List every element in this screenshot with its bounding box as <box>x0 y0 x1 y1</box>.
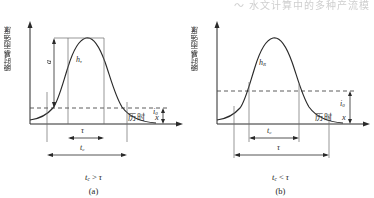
caption-cond-op-a: > <box>92 172 97 182</box>
caption-cond-right-b: τ <box>286 172 289 182</box>
baseline-label-b: i0 <box>340 100 345 109</box>
y-axis-variable-a: i <box>6 26 8 34</box>
caption-cond-op-b: < <box>279 172 284 182</box>
y-axis-label-b: 瞬时暴雨强度 <box>191 28 198 72</box>
peak-label-sub-a: τ <box>80 59 82 64</box>
caption-condition-b: tc < τ <box>187 172 374 182</box>
caption-cond-left-sub-a: c <box>87 176 89 182</box>
caption-id-a: (a) <box>0 186 187 196</box>
plot-area-b: 瞬时暴雨强度 i 历时 x hR i0 tc τ <box>187 12 374 170</box>
y-axis-variable-b: i <box>193 26 195 34</box>
scan-ghost-text: ～ 水文计算中的多种产流模 <box>234 0 370 12</box>
outer-dimension-label-a: tc <box>80 144 84 153</box>
x-axis-variable-b: x <box>342 113 346 122</box>
baseline-label-sub-b: 0 <box>342 103 344 108</box>
scan-artifact-strip: ～ 水文计算中的多种产流模 <box>0 0 374 12</box>
figure-panel-b: 瞬时暴雨强度 i 历时 x hR i0 tc τ tc < τ <box>187 12 374 198</box>
outer-dimension-label-b: τ <box>277 144 280 152</box>
hyetograph-svg-b <box>187 12 374 170</box>
peak-label-sub-b: R <box>263 62 266 67</box>
amplitude-label-a: a <box>44 60 53 64</box>
figure-container: 瞬时暴雨强度 i 历时 x hτ a i0 τ tc tc > <box>0 12 374 198</box>
baseline-label-a: i0 <box>153 108 158 117</box>
inner-dimension-label-a: τ <box>81 127 84 135</box>
baseline-label-sub-a: 0 <box>155 111 157 116</box>
caption-cond-right-a: τ <box>99 172 102 182</box>
plot-area-a: 瞬时暴雨强度 i 历时 x hτ a i0 τ tc <box>0 12 187 170</box>
inner-dimension-label-b: tc <box>267 127 271 136</box>
outer-dimension-sub-a: c <box>82 147 84 152</box>
y-axis-label-a: 瞬时暴雨强度 <box>4 28 11 72</box>
caption-id-b: (b) <box>187 186 374 196</box>
peak-label-b: hR <box>259 59 266 68</box>
x-axis-label-a: 历时 <box>128 113 145 121</box>
hyetograph-svg-a <box>0 12 187 170</box>
figure-panel-a: 瞬时暴雨强度 i 历时 x hτ a i0 τ tc tc > <box>0 12 187 198</box>
caption-condition-a: tc > τ <box>0 172 187 182</box>
peak-label-a: hτ <box>76 56 82 65</box>
x-axis-label-b: 历时 <box>315 113 332 121</box>
caption-cond-left-sub-b: c <box>274 176 276 182</box>
inner-dimension-sub-b: c <box>269 130 271 135</box>
